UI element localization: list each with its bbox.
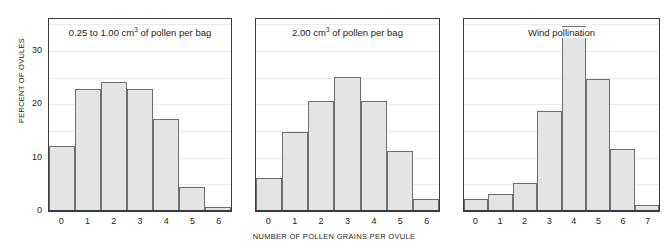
x-tick-label: 2 — [308, 214, 334, 228]
histogram-bar — [635, 205, 659, 210]
x-axis-line-2 — [255, 210, 440, 212]
x-tick-label: 4 — [562, 214, 587, 228]
histogram-bar — [205, 207, 231, 210]
x-tick-label: 1 — [488, 214, 513, 228]
x-tick-label: 6 — [206, 214, 232, 228]
panel-title-3: Wind pollination — [464, 27, 659, 38]
histogram-bar — [49, 146, 75, 210]
histogram-bar — [413, 199, 439, 210]
histogram-bar — [361, 101, 387, 210]
histogram-bar — [334, 77, 360, 210]
y-tick-label: 0 — [20, 205, 42, 215]
y-tick-label: 10 — [20, 152, 42, 162]
x-axis-line-3 — [463, 210, 660, 212]
bars-2 — [256, 19, 439, 210]
histogram-bar — [256, 178, 282, 210]
panel-low-dose: 0.25 to 1.00 cm3 of pollen per bag — [48, 18, 232, 210]
pollen-histogram-figure: PERCENT OF OVULES 0102030 0.25 to 1.00 c… — [0, 0, 668, 252]
histogram-bar — [75, 89, 101, 210]
histogram-bar — [586, 79, 610, 210]
x-axis-line-1 — [48, 210, 232, 212]
x-tick-label: 0 — [48, 214, 74, 228]
histogram-bar — [308, 101, 334, 210]
histogram-bar — [387, 151, 413, 210]
x-tick-label: 3 — [537, 214, 562, 228]
x-tick-label: 3 — [127, 214, 153, 228]
x-tick-label: 5 — [586, 214, 611, 228]
x-tick-label: 4 — [361, 214, 387, 228]
histogram-bar — [488, 194, 512, 210]
panel-wind-pollination: Wind pollination — [463, 18, 660, 210]
y-axis-ticks: 0102030 — [20, 18, 42, 210]
histogram-bar — [562, 26, 586, 210]
y-tick-label: 20 — [20, 98, 42, 108]
histogram-bar — [179, 187, 205, 210]
plot-area-3 — [464, 19, 659, 210]
histogram-bar — [127, 89, 153, 210]
x-tick-label: 0 — [463, 214, 488, 228]
histogram-bar — [153, 119, 179, 210]
x-tick-label: 1 — [74, 214, 100, 228]
x-tick-label: 4 — [153, 214, 179, 228]
x-axis-label: NUMBER OF POLLEN GRAINS PER OVULE — [0, 232, 668, 241]
x-tick-label: 0 — [255, 214, 281, 228]
bars-3 — [464, 19, 659, 210]
plot-area-2 — [256, 19, 439, 210]
histogram-bar — [464, 199, 488, 210]
x-tick-label: 6 — [611, 214, 636, 228]
x-axis-ticks-3: 01234567 — [463, 214, 660, 228]
x-tick-label: 6 — [414, 214, 440, 228]
y-tick-label: 30 — [20, 45, 42, 55]
panel-high-dose: 2.00 cm3 of pollen per bag — [255, 18, 440, 210]
x-tick-label: 5 — [179, 214, 205, 228]
histogram-bar — [282, 132, 308, 210]
histogram-bar — [610, 149, 634, 210]
x-axis-ticks-1: 0123456 — [48, 214, 232, 228]
panel-title-1: 0.25 to 1.00 cm3 of pollen per bag — [49, 27, 231, 38]
x-tick-label: 3 — [334, 214, 360, 228]
x-axis-ticks-2: 0123456 — [255, 214, 440, 228]
bars-1 — [49, 19, 231, 210]
x-tick-label: 7 — [635, 214, 660, 228]
plot-area-1 — [49, 19, 231, 210]
histogram-bar — [537, 111, 561, 210]
histogram-bar — [101, 82, 127, 210]
histogram-bar — [513, 183, 537, 210]
x-tick-label: 1 — [281, 214, 307, 228]
x-tick-label: 2 — [101, 214, 127, 228]
x-tick-label: 5 — [387, 214, 413, 228]
panel-title-2: 2.00 cm3 of pollen per bag — [256, 27, 439, 38]
x-tick-label: 2 — [512, 214, 537, 228]
